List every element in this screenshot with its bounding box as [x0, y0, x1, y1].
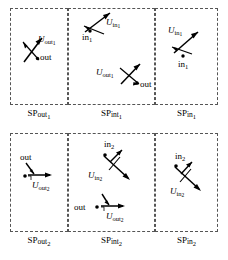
label-u-out-1-sub: out	[45, 38, 53, 45]
vector-arrow-u-in-2-icon	[100, 150, 155, 195]
label-point-in-2-r2c2-idx: 2	[111, 143, 114, 150]
caption-sp-int-2-idx: 2	[119, 240, 122, 247]
vector-diagram-figure: Uout1 out SPout1 in1 Uin1 Uout1	[0, 0, 228, 260]
caption-sp-in-1-idx: 1	[193, 113, 196, 120]
label-point-out-r1c2-text: out	[140, 79, 152, 89]
caption-sp-in-1: SPin1	[155, 108, 218, 122]
label-u-out-2-r2c2: Uout2	[106, 212, 124, 225]
caption-sp-out-1-base: SP	[28, 108, 38, 118]
caption-sp-int-1: SPint1	[68, 108, 155, 122]
label-point-in-1-r1c3-idx: 1	[185, 63, 188, 70]
label-point-in-2-r2c3-base: in	[175, 151, 182, 161]
label-u-in-2-r2c3-idx: 2	[182, 192, 185, 198]
label-point-out-r1c2: out	[140, 80, 152, 89]
label-point-out-r2c2: out	[74, 203, 86, 212]
label-point-in-1-r1c2: in1	[82, 33, 92, 44]
label-u-out-1-r1c2-sub: out	[103, 71, 111, 78]
label-u-out-2-r2c1-sub: out	[39, 184, 47, 191]
label-point-in-2-r2c2-base: in	[104, 139, 111, 149]
label-point-out-r2c2-text: out	[74, 202, 86, 212]
label-u-in-1-r1c3: Uin1	[168, 26, 182, 39]
caption-sp-out-1: SPout1	[10, 108, 68, 122]
label-point-out-r1c1: out	[40, 53, 52, 62]
label-point-out-r2c1-text: out	[20, 152, 32, 162]
label-u-out-2-r2c2-idx: 2	[121, 217, 124, 223]
caption-sp-in-2-base: SP	[177, 235, 187, 245]
label-u-in-2-r2c2: Uin2	[88, 171, 102, 184]
label-u-out-2-r2c2-sub: out	[113, 215, 121, 222]
label-point-out-r2c1: out	[20, 153, 32, 162]
caption-sp-in-2-idx: 2	[193, 240, 196, 247]
caption-sp-out-2-sub: out	[38, 237, 48, 246]
label-u-in-2-r2c2-idx: 2	[100, 176, 103, 182]
caption-sp-int-1-base: SP	[101, 108, 111, 118]
label-u-in-1-r1c3-idx: 1	[180, 31, 183, 37]
caption-sp-out-2: SPout2	[10, 235, 68, 249]
label-u-out-1-r1c2: Uout1	[96, 68, 114, 81]
label-u-out-1-idx: 1	[53, 40, 56, 46]
caption-sp-out-2-idx: 2	[47, 240, 50, 247]
label-u-out-1: Uout1	[38, 35, 56, 48]
label-u-out-2-r2c1: Uout2	[32, 181, 50, 194]
label-u-in-2-r2c3: Uin2	[170, 187, 184, 200]
caption-sp-int-2: SPint2	[68, 235, 155, 249]
caption-sp-int-2-sub: int	[111, 237, 119, 246]
caption-sp-out-1-idx: 1	[47, 113, 50, 120]
label-point-in-1-r1c3-base: in	[178, 59, 185, 69]
vector-arrow-u-in-2-r2c3-icon	[172, 162, 227, 207]
label-point-in-1-r1c2-base: in	[82, 32, 89, 42]
label-point-in-1-r1c3: in1	[178, 60, 188, 71]
label-u-in-1-r1c2-idx: 1	[118, 23, 121, 29]
label-u-out-2-r2c1-idx: 2	[47, 186, 50, 192]
label-u-in-1-r1c2: Uin1	[106, 18, 120, 31]
caption-sp-int-1-idx: 1	[119, 113, 122, 120]
label-point-in-1-r1c2-idx: 1	[89, 36, 92, 43]
label-point-out-r1c1-text: out	[40, 52, 52, 62]
caption-sp-int-2-base: SP	[101, 235, 111, 245]
label-point-in-2-r2c3-idx: 2	[182, 155, 185, 162]
caption-sp-in-1-base: SP	[177, 108, 187, 118]
caption-sp-out-2-base: SP	[28, 235, 38, 245]
caption-sp-out-1-sub: out	[38, 110, 48, 119]
caption-sp-in-2: SPin2	[155, 235, 218, 249]
caption-sp-int-1-sub: int	[111, 110, 119, 119]
label-u-out-1-r1c2-idx: 1	[111, 73, 114, 79]
